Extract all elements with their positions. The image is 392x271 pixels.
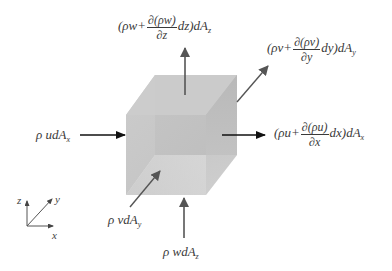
inflow-x-text: ρ udA xyxy=(36,127,66,142)
label-inflow-y: ρ vdAy xyxy=(108,213,141,229)
outflow-x-subscript: x xyxy=(361,133,365,142)
outflow-x-suffix: dx)dA xyxy=(330,125,361,140)
axis-label-y: y xyxy=(55,193,60,205)
outflow-x-prefix: (ρu+ xyxy=(274,125,300,140)
outflow-y-suffix: dy)dA xyxy=(321,40,352,55)
outflow-z-denominator: ∂z xyxy=(157,28,168,41)
inflow-z-text: ρ wdA xyxy=(163,244,196,259)
outflow-x-fraction: ∂(ρu)∂x xyxy=(301,121,329,148)
arrow-outflow-y xyxy=(237,66,268,102)
y-axis xyxy=(27,199,52,226)
axis-label-z: z xyxy=(17,194,21,206)
inflow-x-subscript: x xyxy=(66,135,70,144)
coordinate-axes xyxy=(27,199,53,226)
inflow-z-subscript: z xyxy=(196,252,199,261)
outflow-z-suffix: dz)dA xyxy=(178,18,208,33)
outflow-y-fraction: ∂(ρv)∂y xyxy=(293,36,320,63)
label-inflow-z: ρ wdAz xyxy=(163,245,199,261)
axis-label-x: x xyxy=(52,229,57,241)
outflow-y-subscript: y xyxy=(352,48,356,57)
outflow-z-subscript: z xyxy=(208,26,211,35)
label-outflow-x: (ρu+∂(ρu)∂xdx)dAx xyxy=(274,121,364,148)
cube xyxy=(126,75,237,195)
inflow-y-text: ρ vdA xyxy=(108,212,138,227)
outflow-z-numerator: ∂(ρw) xyxy=(147,14,177,28)
label-outflow-z: (ρw+∂(ρw)∂zdz)dAz xyxy=(118,14,211,41)
outflow-y-denominator: ∂y xyxy=(301,50,312,63)
label-inflow-x: ρ udAx xyxy=(36,128,70,144)
outflow-z-fraction: ∂(ρw)∂z xyxy=(147,14,177,41)
outflow-y-numerator: ∂(ρv) xyxy=(293,36,320,50)
cube-front-face xyxy=(126,115,206,195)
label-outflow-y: (ρv+∂(ρv)∂ydy)dAy xyxy=(267,36,356,63)
inflow-y-subscript: y xyxy=(138,220,142,229)
outflow-x-numerator: ∂(ρu) xyxy=(301,121,329,135)
outflow-y-prefix: (ρv+ xyxy=(267,40,292,55)
outflow-x-denominator: ∂x xyxy=(309,135,320,148)
outflow-z-prefix: (ρw+ xyxy=(118,18,146,33)
